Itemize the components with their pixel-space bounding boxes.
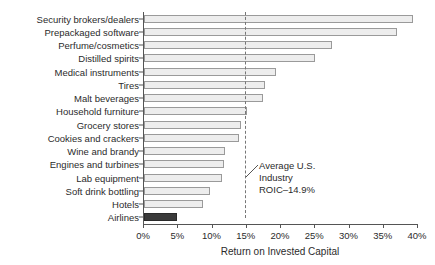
category-tick [139, 71, 143, 72]
bar [144, 54, 315, 62]
category-tick [139, 58, 143, 59]
category-tick [139, 124, 143, 125]
category-label: Cookies and crackers [48, 132, 139, 143]
x-tick-label: 40% [407, 230, 426, 241]
category-label: Distilled spirits [78, 53, 139, 64]
bar-rows: Security brokers/dealersPrepackaged soft… [0, 12, 435, 224]
roic-bar-chart: Security brokers/dealersPrepackaged soft… [0, 0, 435, 265]
category-tick [139, 164, 143, 165]
x-tick-label: 35% [373, 230, 392, 241]
bar [144, 213, 177, 221]
chart-row: Tires [0, 78, 435, 91]
bar [144, 200, 203, 208]
category-label: Lab equipment [76, 172, 139, 183]
bar [144, 147, 225, 155]
x-tick [177, 224, 178, 228]
average-reference-line [245, 12, 246, 218]
x-tick [349, 224, 350, 228]
chart-row: Prepackaged software [0, 25, 435, 38]
x-tick-label: 30% [339, 230, 358, 241]
x-tick [280, 224, 281, 228]
chart-row: Security brokers/dealers [0, 12, 435, 25]
category-tick [139, 111, 143, 112]
category-label: Wine and brandy [67, 146, 139, 157]
chart-row: Perfume/cosmetics [0, 39, 435, 52]
bar [144, 41, 332, 49]
category-tick [139, 190, 143, 191]
bar [144, 68, 276, 76]
bar [144, 81, 265, 89]
category-label: Grocery stores [77, 119, 139, 130]
category-label: Malt beverages [74, 93, 139, 104]
category-tick [139, 18, 143, 19]
category-label: Security brokers/dealers [37, 13, 139, 24]
category-tick [139, 45, 143, 46]
chart-row: Grocery stores [0, 118, 435, 131]
annotation-leader-line [246, 164, 259, 178]
bar [144, 187, 210, 195]
category-label: Airlines [108, 212, 139, 223]
category-tick [139, 204, 143, 205]
x-tick [417, 224, 418, 228]
category-label: Tires [118, 79, 139, 90]
x-tick-label: 15% [236, 230, 255, 241]
x-tick [314, 224, 315, 228]
annotation-line-3: ROIC–14.9% [259, 184, 315, 196]
chart-row: Lab equipment [0, 171, 435, 184]
chart-row: Medical instruments [0, 65, 435, 78]
category-tick [139, 151, 143, 152]
category-tick [139, 137, 143, 138]
bar [144, 121, 241, 129]
chart-row: Soft drink bottling [0, 184, 435, 197]
bar [144, 134, 239, 142]
category-tick [139, 177, 143, 178]
bar [144, 15, 413, 23]
bar [144, 160, 224, 168]
x-tick-label: 25% [305, 230, 324, 241]
category-tick [139, 217, 143, 218]
category-label: Prepackaged software [44, 26, 139, 37]
x-tick [383, 224, 384, 228]
x-tick-label: 20% [270, 230, 289, 241]
category-label: Perfume/cosmetics [58, 40, 139, 51]
bar [144, 174, 222, 182]
category-tick [139, 98, 143, 99]
x-tick-label: 5% [170, 230, 184, 241]
annotation-line-2: Industry [259, 172, 315, 184]
category-label: Hotels [112, 199, 139, 210]
x-tick-label: 0% [136, 230, 150, 241]
chart-row: Cookies and crackers [0, 131, 435, 144]
chart-row: Malt beverages [0, 92, 435, 105]
x-tick [246, 224, 247, 228]
category-tick [139, 84, 143, 85]
annotation-line-1: Average U.S. [259, 160, 315, 172]
chart-row: Airlines [0, 211, 435, 224]
x-axis-title: Return on Invested Capital [143, 246, 417, 257]
chart-row: Household furniture [0, 105, 435, 118]
category-label: Soft drink bottling [66, 185, 139, 196]
chart-row: Distilled spirits [0, 52, 435, 65]
bar [144, 28, 397, 36]
category-label: Engines and turbines [50, 159, 139, 170]
x-tick [212, 224, 213, 228]
category-tick [139, 31, 143, 32]
x-tick [143, 224, 144, 228]
x-tick-label: 10% [202, 230, 221, 241]
chart-row: Wine and brandy [0, 145, 435, 158]
average-roic-annotation: Average U.S. Industry ROIC–14.9% [259, 160, 315, 196]
category-label: Medical instruments [55, 66, 139, 77]
chart-row: Engines and turbines [0, 158, 435, 171]
bar [144, 107, 247, 115]
chart-row: Hotels [0, 198, 435, 211]
category-label: Household furniture [56, 106, 139, 117]
